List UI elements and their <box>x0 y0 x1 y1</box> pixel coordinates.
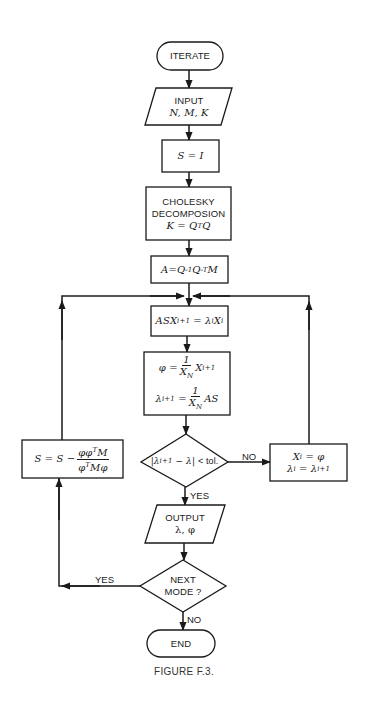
start-label: ITERATE <box>157 42 223 70</box>
next-mode-label: NEXT MODE ? <box>140 560 226 612</box>
figure-caption: FIGURE F.3. <box>0 666 368 677</box>
cholesky-expr: K = QTQ <box>166 220 210 232</box>
output-label: OUTPUT λ, φ <box>151 505 219 543</box>
edge-label-convergence-yes: YES <box>190 490 209 501</box>
update-label: Xi = φ λi = λi+1 <box>270 444 347 481</box>
lambda-expr: λi+1 = 1XN AS <box>156 385 219 413</box>
deflate-label: S = S − φφTM φTMφ <box>22 440 123 478</box>
input-label: INPUT N, M, K <box>150 88 228 125</box>
normalize-label: φ = 1XN Xi+1 λi+1 = 1XN AS <box>144 352 230 415</box>
edge-label-next-mode-no: NO <box>187 614 201 625</box>
convergence-label: |λi+1 − λ| < tol. <box>141 434 228 487</box>
solve-label: ASXi+1 = λiXi <box>151 306 228 336</box>
edge-label-next-mode-yes: YES <box>95 574 114 585</box>
init-label: S = I <box>162 140 219 172</box>
output-vars: λ, φ <box>175 524 195 536</box>
input-vars: N, M, K <box>169 107 208 119</box>
phi-expr: φ = 1XN Xi+1 <box>159 354 215 382</box>
cholesky-label: CHOLESKY DECOMPOSION K = QTQ <box>146 187 231 240</box>
end-label: END <box>147 630 215 657</box>
edge-label-convergence-no: NO <box>242 451 256 462</box>
a-matrix-label: A=Q-1Q-TM <box>151 256 228 283</box>
